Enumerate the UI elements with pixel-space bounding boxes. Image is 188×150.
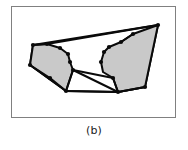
vertex-left-mid-b [68, 60, 72, 64]
left-shaded-polygon [30, 44, 73, 91]
figure-container: (b) [0, 0, 188, 150]
vertex-bottom-left [64, 89, 68, 93]
vertex-right-mid-a [102, 50, 106, 54]
vertex-left-side [48, 76, 52, 80]
vertex-right-upper [107, 45, 111, 49]
vertex-far-left [28, 63, 32, 67]
edge-top-left-to-notch [33, 44, 47, 45]
vertex-right-notch [119, 40, 123, 44]
vertex-far-right [143, 85, 147, 89]
vertex-top-notch [45, 42, 49, 46]
vertex-right-mid-b [99, 60, 103, 64]
right-shaded-polygon [101, 25, 158, 92]
vertex-right-apex [131, 32, 135, 36]
figure-caption: (b) [0, 124, 188, 138]
vertex-left-mid-a [66, 52, 70, 56]
vertex-center-left [71, 68, 75, 72]
vertex-bottom-right [116, 90, 120, 94]
vertex-left-upper [58, 46, 62, 50]
vertex-top-right [156, 23, 160, 27]
edge-bottom-chord [66, 91, 118, 92]
vertex-center-right [111, 76, 115, 80]
vertex-top-left [31, 43, 35, 47]
